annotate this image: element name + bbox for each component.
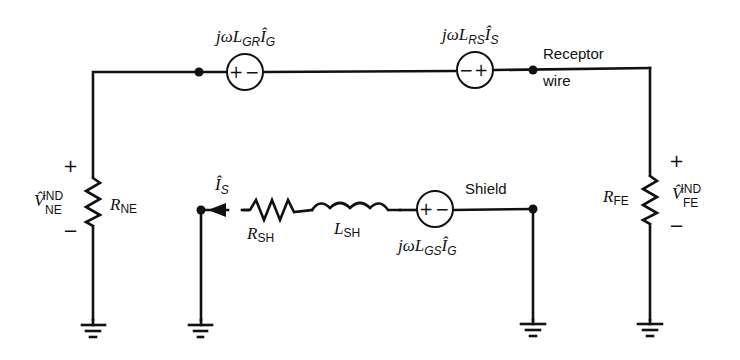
minus-sign-ne: −	[63, 220, 78, 241]
label-r-sh: RSH	[246, 224, 274, 245]
ground-icon	[638, 320, 662, 336]
svg-text:−: −	[459, 60, 473, 80]
label-source-rs: jωLRSÎS	[440, 25, 499, 47]
circuit-diagram: + − − + + −	[0, 0, 740, 360]
receptor-circuit	[93, 66, 650, 321]
ground-icon	[189, 320, 212, 337]
svg-text:−: −	[435, 199, 449, 219]
label-source-gr: jωLGRÎG	[214, 27, 275, 49]
svg-text:+: +	[419, 199, 433, 219]
label-i-s: ÎS	[214, 175, 229, 197]
resistor-r-fe	[643, 176, 657, 224]
resistor-r-ne	[86, 178, 100, 226]
ground-icon	[82, 320, 105, 337]
label-shield: Shield	[465, 180, 507, 197]
ground-icon	[521, 320, 545, 336]
label-r-ne: RNE	[109, 195, 137, 216]
svg-text:+: +	[474, 60, 488, 80]
voltage-source-gr: + −	[227, 54, 263, 90]
svg-text:+: +	[229, 62, 243, 82]
label-v-fe-sub: FE	[683, 196, 698, 210]
label-r-fe: RFE	[602, 187, 629, 208]
label-v-ne-sub: NE	[45, 203, 62, 217]
current-arrow-icon	[208, 203, 226, 217]
voltage-source-rs: − +	[457, 52, 493, 88]
junction-node	[195, 68, 204, 77]
label-wire: wire	[542, 72, 571, 89]
shield-circuit	[197, 200, 538, 320]
plus-sign-ne: +	[63, 155, 78, 176]
plus-sign-fe: +	[669, 150, 684, 171]
svg-text:−: −	[245, 62, 259, 82]
voltage-source-gs: + −	[417, 191, 453, 227]
label-receptor: Receptor	[543, 45, 604, 62]
label-source-gs: jωLGSÎG	[396, 236, 457, 258]
junction-node	[529, 66, 538, 75]
minus-sign-fe: −	[669, 215, 684, 236]
label-l-sh: LSH	[333, 219, 360, 240]
